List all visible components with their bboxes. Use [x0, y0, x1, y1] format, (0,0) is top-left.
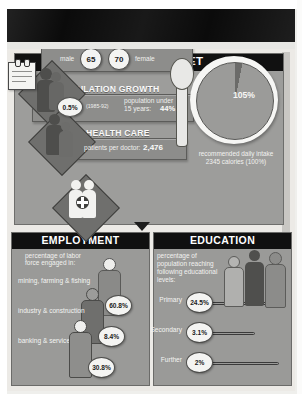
patients-per-doctor-value: 2,476 [143, 143, 163, 152]
flow-arrow-icon [134, 222, 150, 231]
scan-band-edge [2, 42, 295, 49]
employment-value-2: 30.8% [88, 357, 115, 378]
education-intro-line1: percentage of [157, 252, 197, 260]
employment-row-label-1: industry & construction [18, 307, 103, 314]
population-growth-rate: 0.5% [57, 97, 83, 117]
calorie-pie-chart [196, 62, 274, 140]
employment-row-label-0: mining, farming & fishing [18, 277, 103, 284]
under15-label-line2: 15 years: [124, 105, 151, 112]
calorie-caption-line2: 2345 calories (100%) [186, 158, 286, 166]
education-row-label-1: Secondary [145, 326, 182, 333]
calendar-icon [8, 62, 36, 90]
education-panel-title: EDUCATION [154, 234, 291, 246]
scan-top-margin [0, 0, 302, 9]
under15-value: 44% [160, 104, 175, 113]
calorie-caption-line1: recommended daily intake [186, 150, 286, 158]
employment-value-0: 60.8% [105, 295, 132, 316]
education-row-label-0: Primary [150, 296, 182, 303]
education-intro-line3: following educational [157, 268, 217, 276]
spoon-handle [176, 84, 188, 147]
employment-intro-line2: force engaged in: [25, 259, 75, 267]
medical-cross-icon [76, 196, 89, 209]
population-growth-period: (1985-92) [86, 103, 109, 109]
patients-per-doctor-label: patients per doctor: [84, 144, 140, 151]
calorie-caption: recommended daily intake 2345 calories (… [186, 150, 286, 166]
infographic-page: HEALTH AND DIET LIFE EXPECTANCY IN YEARS… [0, 0, 302, 394]
female-label: female [135, 55, 155, 62]
spoon-bowl-icon [170, 58, 194, 90]
male-life-expectancy-value: 65 [80, 48, 102, 70]
scan-band-highlight [2, 9, 295, 42]
health-care-heading: HEALTH CARE [86, 128, 150, 138]
scan-right-margin [297, 0, 302, 394]
education-intro-line4: levels: [157, 276, 175, 284]
education-connector-2 [205, 362, 279, 365]
under15-label-line1: population under [124, 97, 173, 104]
education-value-1: 3.1% [186, 322, 213, 343]
employment-value-1: 8.4% [98, 326, 125, 347]
female-life-expectancy-value: 70 [108, 48, 130, 70]
education-value-2: 2% [186, 352, 213, 373]
education-row-label-2: Further [150, 356, 182, 363]
education-value-0: 24.5% [186, 292, 213, 313]
male-label: male [60, 55, 74, 62]
calorie-pie-value: 105% [233, 90, 255, 100]
education-intro-line2: population reaching [157, 260, 214, 268]
scan-left-margin [0, 0, 7, 394]
